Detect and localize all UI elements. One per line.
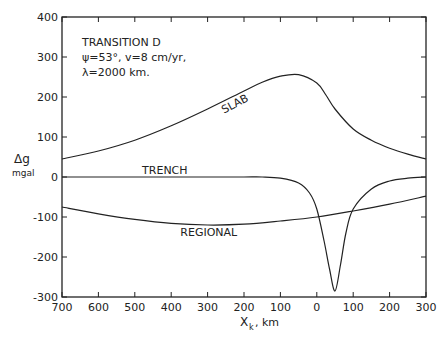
label-trench: TRENCH [141, 164, 188, 177]
x-tick-label: 300 [197, 301, 218, 314]
y-tick-label: -200 [33, 251, 58, 264]
y-tick-label: -300 [33, 291, 58, 304]
y-axis-label: Δg [14, 152, 30, 166]
annotation-line3: λ=2000 km. [82, 66, 150, 79]
series-regional [62, 196, 426, 225]
label-regional: REGIONAL [180, 226, 238, 239]
y-tick-label: 100 [37, 131, 58, 144]
y-tick-label: 300 [37, 51, 58, 64]
x-tick-label: 200 [379, 301, 400, 314]
x-tick-label: 600 [88, 301, 109, 314]
series-trench [62, 177, 426, 291]
y-tick-label: -100 [33, 211, 58, 224]
x-axis-label: X [240, 315, 248, 329]
annotation-line1: TRANSITION D [81, 36, 161, 49]
x-tick-label: 100 [270, 301, 291, 314]
x-tick-label: 300 [416, 301, 437, 314]
x-axis-unit: , km [255, 316, 279, 329]
y-tick-label: 200 [37, 91, 58, 104]
x-tick-label: 500 [124, 301, 145, 314]
y-tick-label: 0 [51, 171, 58, 184]
y-axis-unit: mgal [12, 168, 35, 178]
x-tick-label: 400 [161, 301, 182, 314]
y-tick-label: 400 [37, 11, 58, 24]
x-tick-label: 100 [343, 301, 364, 314]
x-tick-label: 0 [313, 301, 320, 314]
gravity-anomaly-chart: 7006005004003002001000100200300400300200… [0, 0, 446, 339]
series-slab [62, 74, 426, 159]
x-axis-label-sub: k [249, 323, 254, 332]
annotation-line2: ψ=53°, v=8 cm/yr, [82, 51, 186, 64]
x-tick-label: 200 [234, 301, 255, 314]
